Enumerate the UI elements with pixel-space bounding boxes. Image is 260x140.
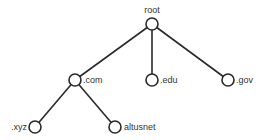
domain-tree-diagram: root .com .edu .gov .xyz altusnet <box>0 0 260 140</box>
node-altusnet <box>109 121 121 133</box>
edge-root-com <box>75 24 152 80</box>
node-com <box>69 74 81 86</box>
node-xyz <box>29 121 41 133</box>
edge-root-gov <box>152 24 228 80</box>
nodes <box>29 18 234 133</box>
label-com: .com <box>83 75 103 85</box>
edges <box>35 24 228 127</box>
edge-com-altusnet <box>75 80 115 127</box>
label-root: root <box>144 5 160 15</box>
node-edu <box>146 74 158 86</box>
label-gov: .gov <box>236 75 254 85</box>
label-xyz: .xyz <box>11 122 28 132</box>
label-altusnet: altusnet <box>124 122 156 132</box>
node-root <box>146 18 158 30</box>
edge-com-xyz <box>35 80 75 127</box>
label-edu: .edu <box>160 75 178 85</box>
node-gov <box>222 74 234 86</box>
